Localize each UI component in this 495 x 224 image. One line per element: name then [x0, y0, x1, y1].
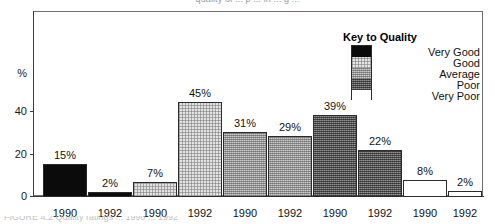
bar-very-good-1992 — [88, 192, 132, 197]
legend-title: Key to Quality — [343, 32, 417, 43]
y-tick-mark-0 — [30, 196, 33, 197]
y-tick-label-40: 40 — [1, 106, 27, 117]
y-tick-label-20: 20 — [1, 149, 27, 160]
bar-value-1: 15% — [37, 150, 93, 161]
bar-chart-figure: quality of ... p ... in ... g ... % 40 2… — [0, 0, 495, 224]
bar-average-1992 — [268, 136, 312, 197]
y-tick-label-0: 0 — [1, 191, 27, 202]
bar-value-7: 39% — [307, 101, 363, 112]
bottom-caption-fragment: FIGURE 4.2 Quality ratings ... 1990 ... … — [0, 216, 495, 224]
bar-value-8: 22% — [352, 136, 408, 147]
legend-swatch-very-poor-icon — [352, 90, 371, 101]
bar-value-3: 7% — [127, 168, 183, 179]
bar-value-4: 45% — [172, 88, 228, 99]
legend-swatch-very-good-icon — [352, 46, 371, 57]
bar-poor-1990 — [313, 115, 357, 197]
bar-value-2: 2% — [82, 178, 138, 189]
bar-average-1990 — [223, 132, 267, 197]
y-axis-unit-label: % — [1, 68, 27, 79]
bar-very-poor-1992 — [448, 191, 482, 197]
bar-value-10: 2% — [440, 177, 490, 188]
legend-swatch-poor-icon — [352, 79, 371, 90]
bar-value-6: 29% — [262, 122, 318, 133]
legend-swatch-good-icon — [352, 57, 371, 68]
y-tick-mark-20 — [30, 154, 33, 155]
bar-good-1990 — [133, 182, 177, 197]
bar-value-9: 8% — [397, 166, 453, 177]
y-tick-mark-40 — [30, 111, 33, 112]
y-axis-line — [33, 11, 34, 197]
legend-swatch-stack — [351, 45, 372, 100]
legend-swatch-average-icon — [352, 68, 371, 79]
top-caption-fragment: quality of ... p ... in ... g ... — [0, 0, 495, 9]
bar-good-1992 — [178, 102, 222, 197]
bar-very-good-1990 — [43, 164, 87, 197]
bar-poor-1992 — [358, 150, 402, 197]
legend-label-very-poor: Very Poor — [380, 91, 480, 102]
